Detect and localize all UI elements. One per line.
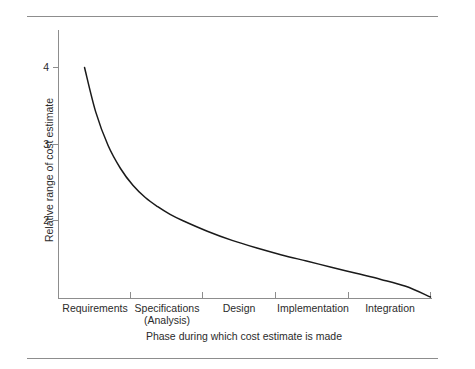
y-axis-title: Relative range of cost estimate [43,75,55,265]
x-category-label-integration: Integration [351,303,429,315]
x-category-label-specifications: Specifications (Analysis) [126,303,208,326]
x-axis-title: Phase during which cost estimate is made [58,330,430,342]
x-category-label-implementation: Implementation [273,303,353,315]
x-category-line1: Design [202,303,276,315]
cost-estimate-curve [85,68,431,298]
y-tick-label-4: 4 [29,62,49,73]
figure-container: 4 3 2 Relative range of cost estimate Re… [0,0,475,369]
x-category-label-design: Design [202,303,276,315]
x-category-line2: (Analysis) [126,315,208,327]
x-category-line1: Specifications [126,303,208,315]
x-category-line1: Implementation [273,303,353,315]
x-category-line1: Requirements [54,303,136,315]
x-category-line1: Integration [351,303,429,315]
x-category-label-requirements: Requirements [54,303,136,315]
